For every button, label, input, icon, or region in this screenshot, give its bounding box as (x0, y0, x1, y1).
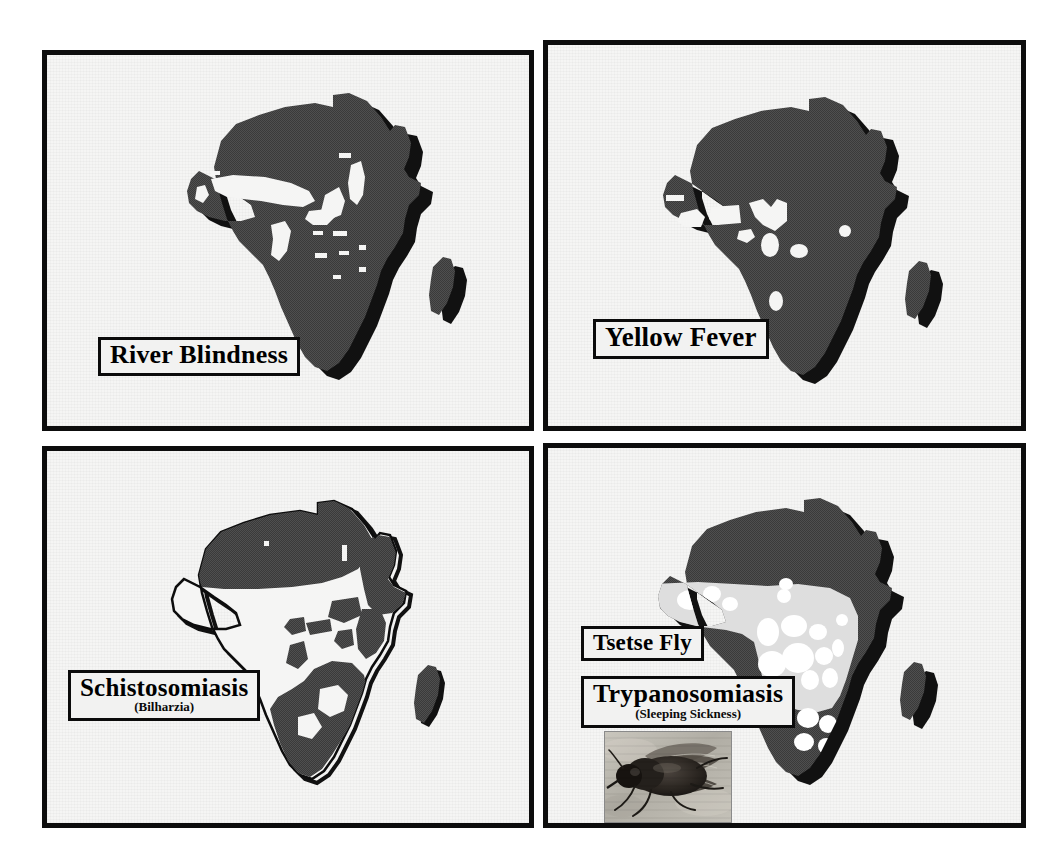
panel-river-blindness: River Blindness (42, 50, 534, 431)
caption-schistosomiasis: Schistosomiasis (Bilharzia) (68, 670, 260, 721)
caption-main-text: Yellow Fever (605, 324, 757, 352)
caption-river-blindness: River Blindness (98, 337, 300, 376)
caption-main-text: Trypanosomiasis (593, 681, 783, 708)
caption-main-text: River Blindness (110, 342, 288, 369)
panel-schistosomiasis: Schistosomiasis (Bilharzia) (42, 446, 534, 828)
caption-trypanosomiasis: Trypanosomiasis (Sleeping Sickness) (581, 676, 795, 728)
panel-background (548, 45, 1021, 426)
tsetse-fly-photograph (604, 731, 732, 823)
panel-background (47, 451, 529, 823)
panel-trypanosomiasis: Tsetse Fly Trypanosomiasis (Sleeping Sic… (543, 443, 1026, 828)
panel-yellow-fever: Yellow Fever (543, 40, 1026, 431)
caption-tsetse-fly: Tsetse Fly (581, 626, 704, 661)
caption-main-text: Schistosomiasis (80, 675, 248, 701)
caption-sub-text: (Bilharzia) (80, 700, 248, 713)
caption-sub-text: (Sleeping Sickness) (593, 707, 783, 720)
caption-yellow-fever: Yellow Fever (593, 319, 769, 359)
caption-main-text: Tsetse Fly (593, 631, 692, 654)
figure-grid: River Blindness (0, 0, 1063, 867)
